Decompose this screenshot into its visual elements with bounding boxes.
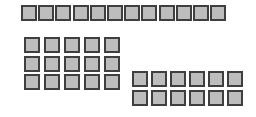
unit-square bbox=[132, 71, 148, 87]
unit-square bbox=[55, 5, 71, 21]
unit-square bbox=[24, 74, 40, 90]
unit-square bbox=[44, 56, 60, 72]
unit-square bbox=[90, 5, 106, 21]
unit-square bbox=[104, 56, 120, 72]
unit-square bbox=[84, 74, 100, 90]
unit-square bbox=[107, 5, 123, 21]
unit-square bbox=[193, 5, 209, 21]
unit-square bbox=[189, 90, 205, 106]
unit-square bbox=[73, 5, 89, 21]
unit-square bbox=[151, 71, 167, 87]
unit-square bbox=[64, 56, 80, 72]
unit-square bbox=[104, 37, 120, 53]
unit-square bbox=[208, 71, 224, 87]
unit-square bbox=[24, 56, 40, 72]
unit-square bbox=[151, 90, 167, 106]
unit-square bbox=[84, 56, 100, 72]
unit-square bbox=[210, 5, 226, 21]
unit-square bbox=[227, 71, 243, 87]
unit-square bbox=[176, 5, 192, 21]
unit-square bbox=[159, 5, 175, 21]
unit-square bbox=[44, 37, 60, 53]
unit-square bbox=[24, 37, 40, 53]
unit-square bbox=[21, 5, 37, 21]
unit-square bbox=[64, 37, 80, 53]
unit-square bbox=[104, 74, 120, 90]
unit-square bbox=[38, 5, 54, 21]
unit-square bbox=[170, 71, 186, 87]
unit-square bbox=[170, 90, 186, 106]
unit-square bbox=[84, 37, 100, 53]
unit-square bbox=[189, 71, 205, 87]
unit-square bbox=[44, 74, 60, 90]
unit-square bbox=[132, 90, 148, 106]
unit-square bbox=[141, 5, 157, 21]
unit-square bbox=[124, 5, 140, 21]
unit-square bbox=[64, 74, 80, 90]
unit-square bbox=[208, 90, 224, 106]
unit-square bbox=[227, 90, 243, 106]
